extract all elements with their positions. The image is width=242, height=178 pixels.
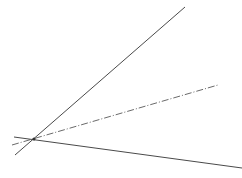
diagram-canvas: [0, 0, 242, 178]
shallow-solid-line: [14, 137, 242, 168]
intersection-point: [33, 138, 36, 141]
steep-solid-line: [15, 7, 185, 155]
dash-dot-line: [12, 85, 218, 145]
lines-diagram: [0, 0, 242, 178]
